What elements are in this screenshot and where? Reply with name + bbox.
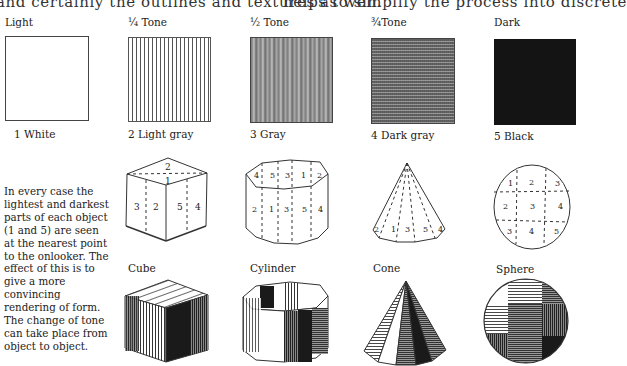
svg-text:1: 1 (165, 176, 171, 186)
shaded-sphere (480, 276, 574, 366)
svg-text:3: 3 (405, 225, 410, 234)
svg-text:2: 2 (252, 205, 257, 214)
svg-text:3: 3 (530, 202, 535, 211)
cube-tone-diagram: 2 1 3 2 5 4 (110, 150, 240, 260)
svg-text:4: 4 (254, 171, 259, 180)
svg-text:4: 4 (558, 202, 563, 211)
svg-text:1: 1 (269, 205, 274, 214)
swatch-gray (250, 37, 333, 123)
swatch-caption-black: 5 Black (494, 130, 534, 142)
top-text-right: helps to simplify the process into discr… (283, 0, 627, 11)
svg-text:3: 3 (507, 227, 512, 236)
svg-text:5: 5 (423, 225, 428, 234)
svg-text:5: 5 (302, 205, 307, 214)
swatch-white (5, 36, 89, 121)
tone-header-quarter: ¼ Tone (128, 16, 167, 28)
svg-text:2: 2 (529, 178, 534, 187)
swatch-dark-gray (371, 38, 455, 124)
tone-header-dark: Dark (494, 16, 520, 28)
svg-text:4: 4 (195, 202, 201, 212)
svg-text:1: 1 (508, 179, 513, 188)
svg-text:4: 4 (318, 205, 323, 214)
cropped-top-text: and certainly the outlines and textures … (0, 0, 382, 11)
swatch-caption-gray: 3 Gray (250, 128, 286, 140)
shaded-label-sphere: Sphere (496, 263, 534, 275)
tone-header-half: ½ Tone (250, 16, 289, 28)
shaded-cone (350, 250, 460, 366)
svg-text:3: 3 (284, 205, 289, 214)
cylinder-tone-diagram: 4 5 3 1 2 2 1 3 5 4 (240, 150, 370, 260)
svg-text:3: 3 (134, 202, 140, 212)
swatch-black (494, 39, 576, 125)
svg-text:2: 2 (165, 162, 171, 172)
swatch-caption-white: 1 White (14, 128, 55, 140)
svg-text:1: 1 (301, 171, 306, 180)
svg-text:2: 2 (317, 171, 322, 180)
sphere-tone-diagram: 1 2 3 2 3 4 3 4 5 (480, 150, 574, 260)
svg-text:5: 5 (270, 171, 275, 180)
tone-header-three-quarter: ¾Tone (371, 16, 407, 28)
svg-text:2: 2 (153, 202, 159, 212)
svg-text:3: 3 (285, 171, 290, 180)
tone-header-light: Light (5, 16, 33, 28)
svg-text:2: 2 (503, 202, 508, 211)
svg-text:2: 2 (374, 225, 379, 234)
swatch-caption-dark-gray: 4 Dark gray (371, 129, 434, 141)
shaded-cube (110, 250, 240, 366)
svg-text:1: 1 (391, 225, 396, 234)
explanation-text: In every case the lightest and darkest p… (4, 185, 109, 353)
svg-text:4: 4 (529, 227, 534, 236)
svg-text:4: 4 (438, 225, 443, 234)
svg-text:3: 3 (555, 179, 560, 188)
svg-text:5: 5 (177, 202, 183, 212)
svg-text:5: 5 (554, 227, 559, 236)
cone-tone-diagram: 2 1 3 5 4 (365, 150, 465, 260)
swatch-light-gray (128, 37, 211, 122)
swatch-caption-light-gray: 2 Light gray (128, 128, 193, 140)
